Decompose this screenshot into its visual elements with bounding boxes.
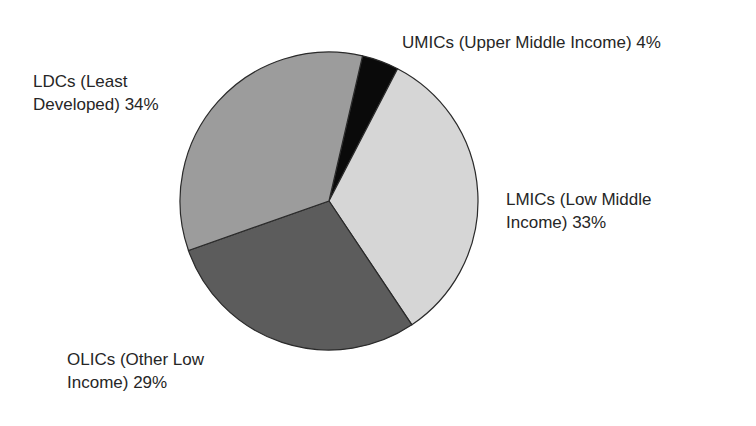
label-olic: OLICs (Other Low Income) 29% — [67, 348, 204, 394]
label-umic-line1: UMICs (Upper Middle Income) 4% — [402, 31, 661, 54]
label-lmic-line2: Income) 33% — [506, 211, 652, 234]
label-ldc-line2: Developed) 34% — [33, 93, 159, 116]
label-umic: UMICs (Upper Middle Income) 4% — [402, 31, 661, 54]
label-olic-line2: Income) 29% — [67, 371, 204, 394]
pie-slices — [180, 52, 478, 350]
label-olic-line1: OLICs (Other Low — [67, 348, 204, 371]
label-lmic-line1: LMICs (Low Middle — [506, 188, 652, 211]
label-ldc: LDCs (Least Developed) 34% — [33, 70, 159, 116]
label-ldc-line1: LDCs (Least — [33, 70, 159, 93]
label-lmic: LMICs (Low Middle Income) 33% — [506, 188, 652, 234]
